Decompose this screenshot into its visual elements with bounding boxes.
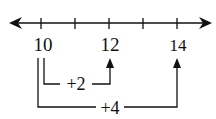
number-line-axis — [9, 17, 212, 29]
tick-label-10: 10 — [34, 34, 53, 55]
arrow-up-icon — [106, 58, 114, 68]
jump-label-plus-4: +4 — [100, 98, 119, 118]
arrow-up-icon — [173, 58, 181, 68]
tick-label-12: 12 — [101, 34, 120, 55]
number-line-diagram: 10 12 14 +2 +4 — [0, 0, 216, 119]
jump-label-plus-2: +2 — [66, 74, 85, 94]
tick-label-14: 14 — [170, 36, 188, 55]
